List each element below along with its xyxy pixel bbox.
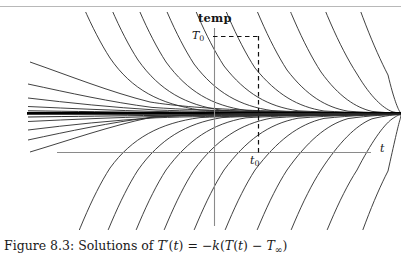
t-axis-label: t: [380, 142, 384, 155]
eq-T: T: [157, 238, 165, 253]
solution-curve: [141, 114, 400, 232]
caption-equation: T′(t) = −k(T(t) − T∞): [157, 238, 287, 253]
solution-curve: [57, 114, 400, 232]
figure-caption: Figure 8.3: Solutions of T′(t) = −k(T(t)…: [4, 239, 397, 256]
eq-minus-1: −: [202, 238, 212, 253]
solution-curve: [342, 0, 401, 113]
eq-minus-2: −: [252, 238, 262, 253]
caption-text: Solutions of: [78, 238, 153, 253]
solution-curve: [85, 114, 400, 232]
solution-curve: [234, 114, 400, 232]
eq-close-paren-3: ): [243, 238, 248, 253]
solution-curve: [113, 114, 400, 232]
initial-time-subscript: 0: [254, 159, 259, 168]
solution-curve: [202, 0, 400, 113]
solution-curve: [304, 0, 401, 113]
solution-curve: [85, 0, 400, 113]
eq-T-2: T: [225, 238, 233, 253]
solution-curve: [202, 114, 400, 232]
figure-container: temp t T0 t0 Figure 8.3: Solutions of T′…: [0, 0, 401, 266]
initial-temperature-label: T0: [192, 29, 204, 43]
eq-T-inf: T: [266, 238, 274, 253]
eq-k: k: [212, 238, 220, 253]
solution-curve: [141, 0, 400, 113]
eq-close-paren-2: ): [283, 238, 288, 253]
temp-axis-label: temp: [198, 11, 232, 25]
solution-curve: [342, 114, 401, 232]
initial-temperature-subscript: 0: [199, 34, 204, 43]
solution-curve: [268, 0, 401, 113]
eq-equals: =: [187, 238, 197, 253]
caption-number: Figure 8.3:: [4, 238, 74, 253]
solution-curve: [30, 62, 401, 113]
eq-infinity-subscript: ∞: [275, 244, 283, 255]
solution-curve: [268, 114, 401, 232]
eq-close-paren-1: ): [179, 238, 184, 253]
initial-time-label: t0: [250, 154, 259, 168]
